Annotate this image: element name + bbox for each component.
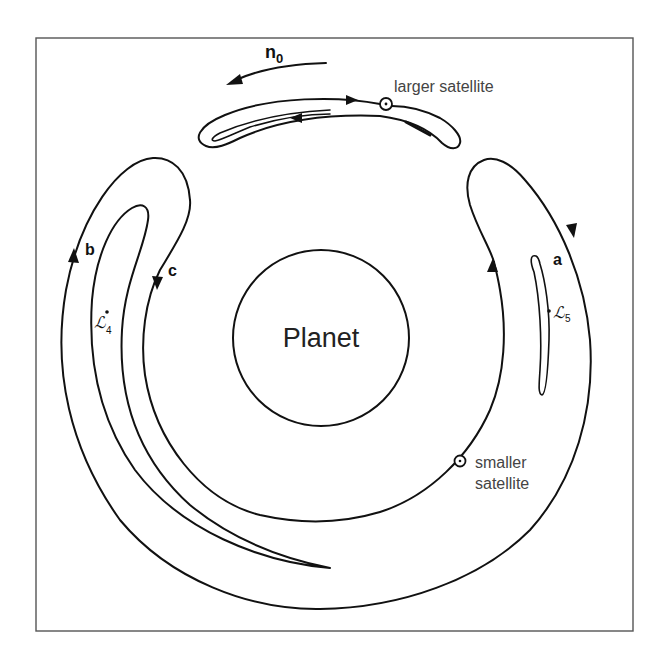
svg-text:ℒ: ℒ bbox=[94, 314, 106, 331]
outer-horseshoe-orbit bbox=[61, 158, 590, 609]
l4-point: ℒ 4 bbox=[94, 310, 112, 336]
arrowhead-icon bbox=[346, 95, 358, 105]
arrowhead-icon bbox=[566, 223, 577, 238]
l5-point: ℒ 5 bbox=[547, 304, 571, 324]
svg-text:4: 4 bbox=[106, 325, 112, 336]
svg-text:ℒ: ℒ bbox=[553, 304, 565, 321]
smaller-satellite-marker bbox=[455, 456, 466, 467]
l4-tadpole-orbit bbox=[91, 205, 330, 568]
smaller-satellite-label-line2: satellite bbox=[475, 475, 529, 492]
larger-satellite-marker bbox=[380, 98, 392, 110]
arrowhead-icon bbox=[68, 248, 79, 263]
larger-satellite-label: larger satellite bbox=[394, 78, 494, 95]
arrowhead-icon bbox=[226, 74, 243, 85]
top-horseshoe-orbit bbox=[199, 95, 461, 148]
l5-tadpole-orbit bbox=[531, 256, 549, 395]
smaller-satellite-label-line1: smaller bbox=[475, 454, 527, 471]
orbit-label-c: c bbox=[168, 262, 177, 279]
arrowhead-icon bbox=[487, 258, 498, 272]
co-orbital-satellites-diagram: n0 larger satellite Planet ℒ 4 bbox=[0, 0, 662, 659]
orbit-label-a: a bbox=[553, 251, 562, 268]
mean-motion-arrow bbox=[226, 63, 326, 85]
planet-label: Planet bbox=[283, 323, 360, 353]
mean-motion-label: n0 bbox=[265, 42, 283, 66]
orbit-label-b: b bbox=[85, 241, 95, 258]
svg-text:5: 5 bbox=[565, 313, 571, 324]
